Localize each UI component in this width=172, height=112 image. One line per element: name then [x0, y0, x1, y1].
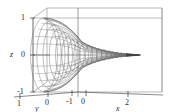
z-tick-label-0: 0	[21, 51, 25, 59]
y-tick-label-minus-1: -1	[66, 98, 73, 106]
x-tick-label-2: 2	[125, 99, 129, 107]
y-axis-title: y	[35, 105, 39, 112]
z-axis-title: z	[10, 51, 13, 59]
plot-canvas	[0, 0, 172, 112]
surface-plot-figure: 1 0 -1 z 1 0 -1 y 0 2 x	[0, 0, 172, 112]
z-tick-label-minus-1: -1	[17, 88, 24, 96]
x-tick-label-0: 0	[81, 98, 85, 106]
surface-tail-tip	[126, 53, 141, 57]
y-tick-label-0: 0	[45, 99, 49, 107]
z-tick-label-1: 1	[21, 14, 25, 22]
y-tick-label-1: 1	[17, 100, 21, 108]
x-axis-title: x	[116, 105, 120, 112]
